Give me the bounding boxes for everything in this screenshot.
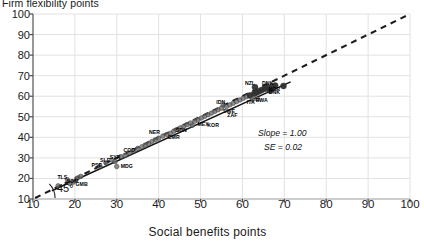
- point-label: DNK: [269, 89, 280, 95]
- angle-annotation: 45°: [57, 182, 74, 194]
- point-label: KOR: [207, 122, 219, 128]
- point-label: NER: [149, 129, 160, 135]
- point-label: IDN: [216, 99, 225, 105]
- se-annotation: SE = 0.02: [264, 142, 302, 152]
- point-label: SLE: [100, 157, 110, 163]
- point-label: MDG: [121, 163, 133, 169]
- point-label: SDN: [176, 127, 187, 133]
- point-label: COD: [124, 147, 136, 153]
- point-label: SYR: [110, 154, 121, 160]
- point-label: ZAF: [227, 112, 237, 118]
- point-label: ITA: [247, 99, 255, 105]
- point-label: CMR: [168, 134, 180, 140]
- point-label: NZL: [245, 80, 255, 86]
- slope-annotation: Slope = 1.00: [258, 128, 307, 138]
- x-axis-title: Social benefits points: [0, 225, 415, 239]
- point-label: RWA: [256, 97, 268, 103]
